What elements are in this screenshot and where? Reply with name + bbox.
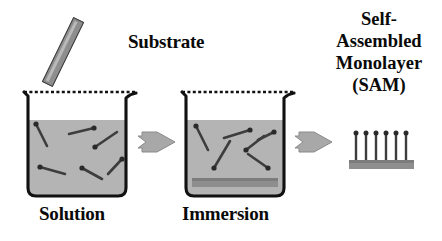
sam-title: Self- Assembled Monolayer (SAM) — [318, 8, 440, 96]
sam-title-line-1: Self- — [318, 8, 440, 30]
substrate-plate-icon — [42, 17, 84, 87]
sam-monolayer-illustration — [345, 128, 417, 174]
immersion-label: Immersion — [182, 204, 269, 223]
beaker-solution — [22, 84, 140, 202]
substrate-label: Substrate — [128, 32, 204, 51]
arrow-right-icon-1 — [137, 127, 177, 157]
arrow-right-icon-2 — [294, 127, 334, 157]
beaker-immersion — [180, 84, 298, 202]
diagram-canvas: Substrate — [0, 0, 442, 241]
sam-title-line-2: Assembled — [318, 30, 440, 52]
solution-label: Solution — [39, 204, 105, 223]
sam-title-line-4: (SAM) — [318, 74, 440, 96]
sam-title-line-3: Monolayer — [318, 52, 440, 74]
